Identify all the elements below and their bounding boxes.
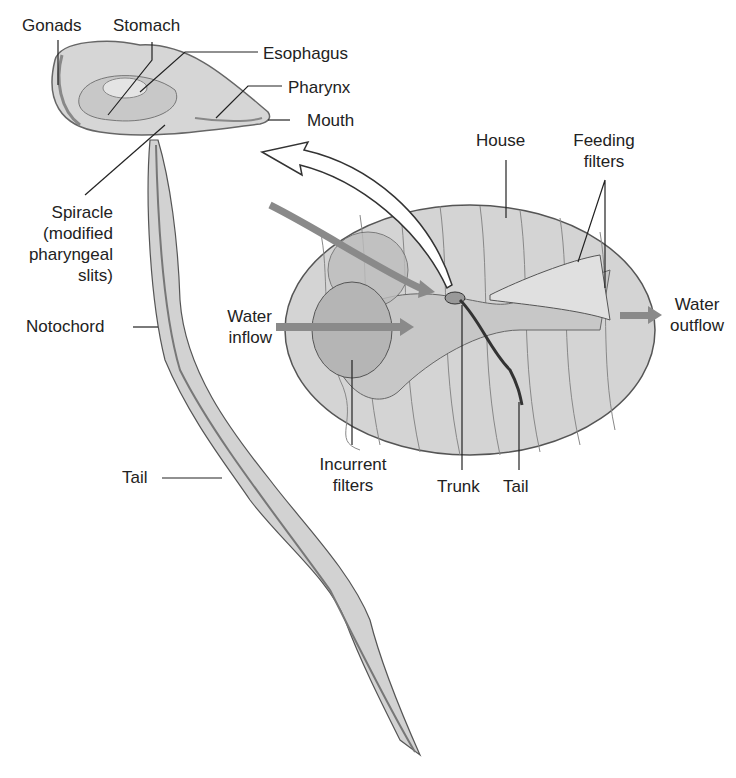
- label-water-out-line2: outflow: [662, 315, 732, 336]
- label-spiracle-line4: slits): [20, 265, 113, 286]
- label-gonads: Gonads: [22, 15, 82, 36]
- label-water-in-line1: Water: [206, 306, 272, 327]
- label-incurrent-line1: Incurrent: [305, 454, 401, 475]
- label-esophagus: Esophagus: [263, 43, 348, 64]
- label-water-inflow: Water inflow: [206, 306, 272, 348]
- label-spiracle-line3: pharyngeal: [20, 244, 113, 265]
- larvacean-diagram: [0, 0, 736, 778]
- label-water-outflow: Water outflow: [662, 294, 732, 336]
- label-tail-left: Tail: [122, 467, 148, 488]
- label-feeding-line2: filters: [563, 151, 645, 172]
- label-incurrent-filters: Incurrent filters: [305, 454, 401, 496]
- label-spiracle-line2: (modified: [20, 223, 113, 244]
- trunk-body: [52, 41, 270, 135]
- label-water-in-line2: inflow: [206, 327, 272, 348]
- label-feeding-line1: Feeding: [563, 130, 645, 151]
- label-incurrent-line2: filters: [305, 475, 401, 496]
- label-notochord: Notochord: [26, 316, 104, 337]
- label-feeding-filters: Feeding filters: [563, 130, 645, 172]
- label-trunk: Trunk: [437, 476, 480, 497]
- label-stomach: Stomach: [113, 15, 180, 36]
- label-pharynx: Pharynx: [288, 77, 350, 98]
- label-tail-right: Tail: [503, 476, 529, 497]
- label-water-out-line1: Water: [662, 294, 732, 315]
- label-house: House: [476, 130, 525, 151]
- label-spiracle: Spiracle (modified pharyngeal slits): [20, 202, 113, 286]
- label-spiracle-line1: Spiracle: [20, 202, 113, 223]
- label-mouth: Mouth: [307, 110, 354, 131]
